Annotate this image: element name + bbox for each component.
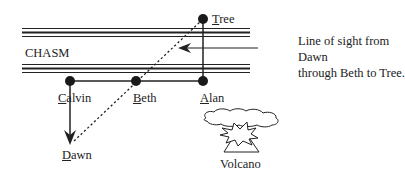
volcano-label: Volcano: [220, 157, 261, 171]
chasm-label: CHASM: [25, 46, 69, 60]
volcano-icon: [204, 109, 278, 152]
alan-dot: [198, 76, 208, 86]
calvin-dot: [65, 76, 75, 86]
beth-label: Beth: [133, 91, 157, 105]
chasm-top-edge: [22, 29, 250, 37]
beth-dot: [131, 76, 141, 86]
line-of-sight-caption: Line of sight from Dawn through Beth to …: [298, 33, 405, 81]
diagram-canvas: [0, 0, 405, 177]
tree-label: Tree: [212, 12, 234, 26]
caption-line-2: through Beth to Tree.: [298, 65, 405, 81]
caption-line-1: Line of sight from Dawn: [298, 33, 405, 65]
caption-pointer-arrow: [178, 43, 258, 53]
tree-dot: [198, 14, 208, 24]
smoke-cloud-icon: [204, 109, 278, 127]
chasm-bottom-edge: [22, 65, 250, 73]
alan-label: Alan: [200, 91, 224, 105]
calvin-label: Calvin: [58, 91, 91, 105]
dawn-label: Dawn: [62, 148, 92, 162]
